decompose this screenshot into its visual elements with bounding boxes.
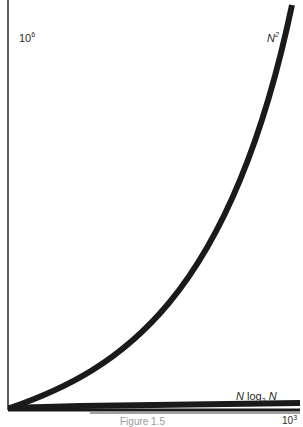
- y-axis-max-label: 106: [19, 32, 35, 44]
- x-axis-max-label: 103: [282, 415, 297, 426]
- figure-caption: Figure 1.5: [120, 416, 165, 427]
- series-nlogn-label: N log2 N: [236, 390, 277, 404]
- series-n2-curve: [10, 5, 292, 408]
- series-n2-label: N2: [267, 32, 279, 44]
